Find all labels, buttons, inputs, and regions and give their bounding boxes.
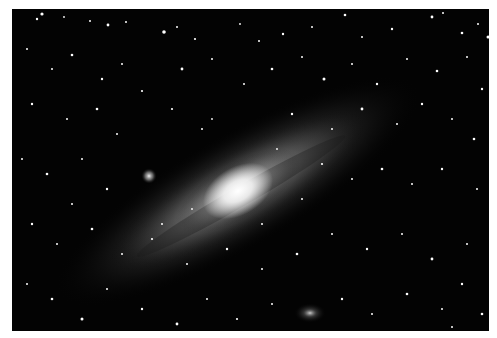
galaxy-illustration [12,9,489,331]
m32-companion [141,168,157,184]
galaxy-disk [27,36,449,331]
andromeda-galaxy-photo [12,9,489,331]
m110-companion [294,303,326,323]
